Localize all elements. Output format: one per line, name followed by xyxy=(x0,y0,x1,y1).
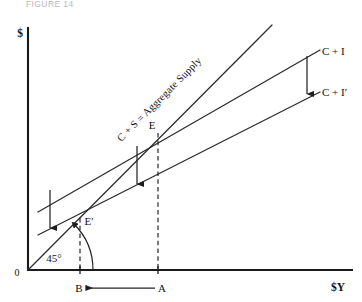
angle-indicator-group xyxy=(74,224,93,270)
origin-label: 0 xyxy=(15,267,20,278)
shift-arrows-group xyxy=(50,56,307,288)
y-axis-label: $ xyxy=(17,27,23,39)
point-label-e-prime: E′ xyxy=(84,215,93,227)
aggregate-supply-label: C + S = Aggregate Supply xyxy=(115,55,204,144)
income-marker-b: B xyxy=(75,282,82,294)
income-marker-a: A xyxy=(158,282,166,294)
c-plus-i-label: C + I xyxy=(322,45,345,57)
labels-group: $ $Y 0 C + S = Aggregate Supply C + I C … xyxy=(15,27,348,294)
curves-group xyxy=(28,25,320,270)
keynesian-cross-chart: $ $Y 0 C + S = Aggregate Supply C + I C … xyxy=(0,0,362,302)
equilibrium-guides-group xyxy=(80,133,158,270)
forty-five-degree-arc xyxy=(74,224,93,270)
c-plus-i-prime-label: C + I′ xyxy=(322,86,347,98)
angle-label: 45° xyxy=(46,252,61,264)
point-label-e: E xyxy=(149,119,156,131)
x-axis-label: $Y xyxy=(331,281,346,293)
c-plus-i-prime-line xyxy=(38,92,320,235)
figure-container: FIGURE 14 xyxy=(0,0,362,302)
